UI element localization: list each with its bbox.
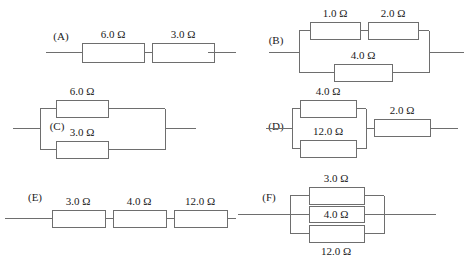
resistor-label-2ohm: 2.0 Ω bbox=[381, 7, 406, 19]
resistor-label-4ohm: 4.0 Ω bbox=[351, 49, 376, 61]
circuit-panel-a-svg: (A) 6.0 Ω 3.0 Ω bbox=[0, 0, 236, 88]
resistor-label-1ohm: 1.0 Ω bbox=[323, 7, 348, 19]
circuit-panel-e: (E) 3.0 Ω 4.0 Ω 12.0 Ω bbox=[0, 176, 236, 264]
resistor-box-2ohm bbox=[368, 22, 418, 39]
circuit-panel-e-svg: (E) 3.0 Ω 4.0 Ω 12.0 Ω bbox=[0, 176, 236, 264]
circuit-panel-d: (D) 4.0 Ω 12.0 Ω 2.0 Ω bbox=[236, 88, 471, 176]
panel-label-e: (E) bbox=[28, 191, 42, 204]
resistor-box-3ohm bbox=[52, 210, 105, 227]
resistor-box-4ohm bbox=[113, 210, 166, 227]
resistor-box-3ohm bbox=[309, 187, 364, 204]
resistor-box-4ohm bbox=[334, 64, 392, 81]
resistor-box-12ohm bbox=[174, 210, 227, 227]
panel-label-d: (D) bbox=[268, 120, 284, 133]
resistor-label-3ohm: 3.0 Ω bbox=[171, 28, 196, 40]
resistor-label-3ohm: 3.0 Ω bbox=[66, 195, 91, 207]
resistor-box-12ohm bbox=[309, 225, 364, 242]
resistor-box-6ohm bbox=[56, 100, 108, 117]
resistor-box-3ohm bbox=[152, 43, 214, 62]
circuit-panel-c: (C) 6.0 Ω 3.0 Ω bbox=[0, 88, 236, 176]
resistor-box-3ohm bbox=[56, 141, 108, 158]
resistor-label-3ohm: 3.0 Ω bbox=[324, 172, 349, 184]
resistor-label-4ohm: 4.0 Ω bbox=[324, 208, 349, 220]
circuit-panel-f-svg: (F) 3.0 Ω 4.0 Ω 12.0 Ω bbox=[236, 176, 471, 264]
circuit-panel-d-svg: (D) 4.0 Ω 12.0 Ω 2.0 Ω bbox=[236, 88, 471, 176]
resistor-box-1ohm bbox=[310, 22, 360, 39]
resistor-label-12ohm: 12.0 Ω bbox=[185, 195, 215, 207]
resistor-label-3ohm: 3.0 Ω bbox=[70, 126, 95, 138]
resistor-label-4ohm: 4.0 Ω bbox=[316, 85, 341, 97]
resistor-box-4ohm bbox=[300, 100, 356, 117]
resistor-label-2ohm: 2.0 Ω bbox=[390, 104, 415, 116]
figure-sheet: (A) 6.0 Ω 3.0 Ω (B) bbox=[0, 0, 471, 264]
circuit-panel-b: (B) 1.0 Ω 2.0 Ω 4.0 Ω bbox=[236, 0, 471, 88]
resistor-box-12ohm bbox=[300, 140, 356, 157]
resistor-label-12ohm: 12.0 Ω bbox=[321, 245, 351, 257]
resistor-box-2ohm bbox=[374, 120, 430, 137]
circuit-panel-f: (F) 3.0 Ω 4.0 Ω 12.0 Ω bbox=[236, 176, 471, 264]
panel-label-a: (A) bbox=[53, 30, 69, 43]
panel-label-f: (F) bbox=[262, 191, 276, 204]
panel-label-b: (B) bbox=[269, 34, 284, 47]
circuit-panel-a: (A) 6.0 Ω 3.0 Ω bbox=[0, 0, 236, 88]
resistor-label-4ohm: 4.0 Ω bbox=[127, 195, 152, 207]
resistor-label-12ohm: 12.0 Ω bbox=[313, 125, 343, 137]
circuit-panel-b-svg: (B) 1.0 Ω 2.0 Ω 4.0 Ω bbox=[236, 0, 471, 88]
resistor-box-6ohm bbox=[82, 43, 144, 62]
resistor-label-6ohm: 6.0 Ω bbox=[70, 85, 95, 97]
circuit-panel-c-svg: (C) 6.0 Ω 3.0 Ω bbox=[0, 88, 236, 176]
resistor-label-6ohm: 6.0 Ω bbox=[101, 28, 126, 40]
panel-label-c: (C) bbox=[50, 120, 65, 133]
